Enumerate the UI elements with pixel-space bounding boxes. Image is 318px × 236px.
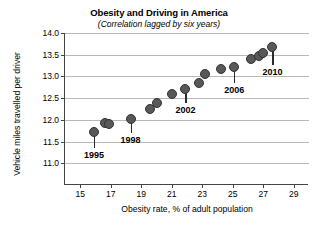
data-point-2000 xyxy=(152,98,162,108)
x-axis-tick-label: 15 xyxy=(76,190,85,198)
chart-title: Obesity and Driving in America xyxy=(0,7,318,18)
year-label-1998: 1998 xyxy=(121,136,141,145)
x-axis-label: Obesity rate, % of adult population xyxy=(65,204,309,214)
x-axis-tick-mark xyxy=(233,184,234,188)
x-axis-tick-label: 21 xyxy=(167,190,176,198)
y-axis-label: Vehicle miles travelled per driver xyxy=(12,39,22,189)
x-axis-tick-mark xyxy=(80,184,81,188)
x-axis-tick-mark xyxy=(263,184,264,188)
data-point-2010 xyxy=(267,42,277,52)
x-axis-tick-mark xyxy=(141,184,142,188)
y-axis-tick-label: 13.5 xyxy=(42,51,59,59)
year-leader-line xyxy=(272,50,273,65)
x-axis-tick-label: 29 xyxy=(289,190,298,198)
data-point-2005 xyxy=(216,64,226,74)
data-point-1995 xyxy=(89,127,99,137)
y-axis-tick-mark xyxy=(61,33,65,34)
x-axis-tick-label: 25 xyxy=(228,190,237,198)
gridline xyxy=(65,33,309,34)
x-axis-tick-label: 23 xyxy=(198,190,207,198)
x-axis-tick-label: 27 xyxy=(259,190,268,198)
x-axis-tick-label: 17 xyxy=(106,190,115,198)
y-axis-tick-label: 12.5 xyxy=(42,94,59,102)
data-point-2006 xyxy=(229,62,239,72)
y-axis-tick-mark xyxy=(61,142,65,143)
y-axis-tick-label: 12.0 xyxy=(42,116,59,124)
y-axis-tick-label: 11.5 xyxy=(43,138,59,146)
gridline xyxy=(65,98,309,99)
y-axis-tick-mark xyxy=(61,76,65,77)
x-axis-tick-mark xyxy=(202,184,203,188)
data-point-2004 xyxy=(200,69,210,79)
y-axis-tick-mark xyxy=(61,98,65,99)
data-point-2001 xyxy=(167,89,177,99)
x-axis-tick-mark xyxy=(172,184,173,188)
chart-figure: Obesity and Driving in America (Correlat… xyxy=(0,0,318,236)
y-axis-tick-mark xyxy=(61,163,65,164)
year-label-2010: 2010 xyxy=(262,68,282,77)
data-point-1998 xyxy=(126,114,136,124)
year-label-2006: 2006 xyxy=(224,86,244,95)
data-point-2002 xyxy=(180,84,190,94)
y-axis-tick-mark xyxy=(61,120,65,121)
x-axis-tick-mark xyxy=(294,184,295,188)
x-axis-tick-label: 19 xyxy=(137,190,146,198)
y-axis-tick-label: 14.0 xyxy=(42,29,59,37)
plot-area: Vehicle miles travelled per driver Obesi… xyxy=(64,33,308,185)
x-axis-tick-mark xyxy=(111,184,112,188)
gridline xyxy=(65,142,309,143)
y-axis-tick-label: 13.0 xyxy=(42,72,59,80)
y-axis-tick-mark xyxy=(61,55,65,56)
y-axis-tick-label: 11.0 xyxy=(43,159,59,167)
data-point-1997 xyxy=(104,119,114,129)
year-label-1995: 1995 xyxy=(84,151,104,160)
gridline xyxy=(65,163,309,164)
data-point-2003 xyxy=(194,78,204,88)
year-label-2002: 2002 xyxy=(175,106,195,115)
